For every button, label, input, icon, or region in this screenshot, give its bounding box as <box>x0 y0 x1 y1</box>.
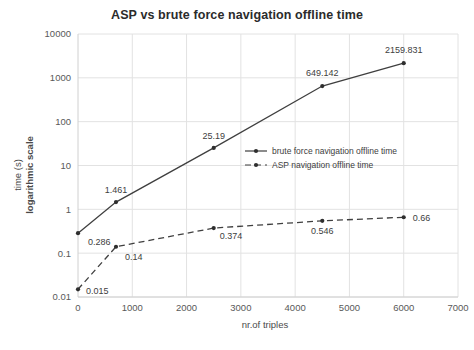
x-tick-label: 1000 <box>122 302 143 313</box>
legend-label[interactable]: ASP navigation offline time <box>272 160 374 170</box>
x-tick-label: 2000 <box>176 302 197 313</box>
x-tick-label: 3000 <box>230 302 251 313</box>
y-axis-title-line2: logarithmic scale <box>24 136 35 214</box>
y-tick-label: 1 <box>66 204 71 215</box>
y-tick-label: 100 <box>55 116 71 127</box>
data-point-label: 0.66 <box>413 213 431 223</box>
data-point-label: 25.19 <box>202 131 225 141</box>
y-tick-label: 10000 <box>45 28 71 39</box>
y-tick-label: 1000 <box>50 72 71 83</box>
data-point-label: 649.142 <box>306 68 339 78</box>
x-tick-label: 6000 <box>393 302 414 313</box>
data-point-marker <box>320 84 324 88</box>
legend-marker <box>254 163 258 167</box>
y-axis-tick-labels: 0.010.1110100100010000 <box>45 28 71 302</box>
data-point-marker <box>114 245 118 249</box>
y-tick-label: 0.01 <box>53 291 72 302</box>
data-point-label: 2159.831 <box>385 45 423 55</box>
x-axis-title: nr.of triples <box>242 319 289 330</box>
x-tick-label: 7000 <box>447 302 468 313</box>
data-point-label: 0.015 <box>86 286 109 296</box>
data-point-marker <box>402 61 406 65</box>
data-point-label: 0.286 <box>88 237 111 247</box>
legend-marker <box>254 149 258 153</box>
data-point-label: 0.546 <box>311 226 334 236</box>
y-axis-title: time (s) logarithmic scale <box>12 136 35 214</box>
data-point-marker <box>212 226 216 230</box>
data-point-marker <box>402 215 406 219</box>
data-point-label: 0.14 <box>125 252 143 262</box>
data-point-marker <box>76 231 80 235</box>
chart-legend[interactable]: brute force navigation offline timeASP n… <box>245 146 397 170</box>
legend-label[interactable]: brute force navigation offline time <box>272 146 397 156</box>
x-tick-label: 5000 <box>339 302 360 313</box>
y-tick-label: 0.1 <box>58 248 71 259</box>
y-tick-label: 10 <box>60 160 71 171</box>
x-tick-label: 4000 <box>285 302 306 313</box>
data-point-marker <box>320 219 324 223</box>
data-point-marker <box>114 200 118 204</box>
chart-container: ASP vs brute force navigation offline ti… <box>0 0 474 350</box>
y-axis-title-line1: time (s) <box>12 159 23 191</box>
data-point-marker <box>76 287 80 291</box>
x-tick-label: 0 <box>75 302 80 313</box>
data-point-label: 1.461 <box>105 185 128 195</box>
data-point-label: 0.374 <box>220 231 243 241</box>
data-point-marker <box>212 146 216 150</box>
data-point-labels: 0.2861.46125.19649.1422159.8310.0150.140… <box>86 45 430 296</box>
chart-plot-area: 01000200030004000500060007000 0.010.1110… <box>0 0 474 350</box>
x-axis-tick-labels: 01000200030004000500060007000 <box>75 302 468 313</box>
